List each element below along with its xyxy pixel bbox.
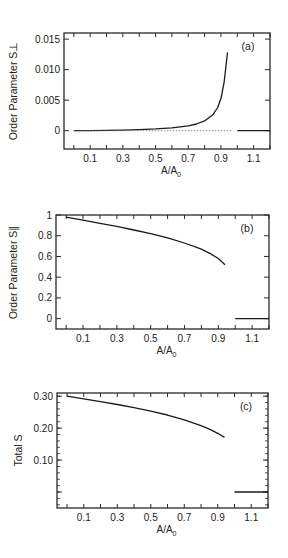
y-tick-label: 0.005 [35, 95, 60, 106]
y-axis-label: Total S [12, 434, 24, 466]
x-tick-label: 0.1 [83, 153, 97, 164]
y-axis-label: Order Parameter S∥ [7, 225, 20, 320]
panel-a-order-parameter-perp: 0.10.30.50.70.91.100.0050.0100.015A/A0Or… [7, 33, 270, 178]
x-tick-label: 0.7 [181, 153, 195, 164]
series-s-perp [74, 53, 228, 131]
plot-frame [64, 33, 270, 149]
y-tick-label: 0.20 [34, 423, 54, 434]
x-axis-label: A/A0 [156, 345, 176, 358]
panel-label: (b) [241, 222, 254, 234]
y-axis-label: Order Parameter S⊥ [7, 42, 19, 141]
x-tick-label: 1.1 [245, 333, 259, 344]
x-tick-label: 0.5 [149, 153, 163, 164]
y-tick-label: 1 [46, 210, 52, 221]
y-tick-label: 0.8 [38, 230, 52, 241]
x-tick-label: 0.9 [211, 512, 225, 523]
plot-frame [57, 393, 268, 508]
x-tick-label: 0.3 [116, 153, 130, 164]
y-tick-label: 0.6 [38, 251, 52, 262]
series-s-total [67, 396, 225, 437]
x-tick-label: 0.3 [110, 512, 124, 523]
y-tick-label: 0.10 [34, 455, 54, 466]
panel-label: (a) [242, 40, 255, 52]
y-tick-label: 0.30 [34, 391, 54, 402]
y-tick-label: 0 [46, 313, 52, 324]
panel-b-order-parameter-parallel: 0.10.30.50.70.91.100.20.40.60.81A/A0Orde… [7, 210, 269, 359]
x-tick-label: 0.1 [77, 512, 91, 523]
y-tick-label: 0 [54, 125, 60, 136]
x-tick-label: 0.5 [144, 512, 158, 523]
panel-label: (c) [240, 400, 252, 412]
x-tick-label: 0.9 [214, 153, 228, 164]
x-tick-label: 0.7 [178, 333, 192, 344]
plot-frame [56, 215, 269, 329]
y-tick-label: 0.2 [38, 292, 52, 303]
x-tick-label: 0.9 [211, 333, 225, 344]
x-tick-label: 1.1 [244, 512, 258, 523]
x-axis-label: A/A0 [156, 524, 176, 537]
x-tick-label: 0.7 [177, 512, 191, 523]
y-tick-label: 0.015 [35, 34, 60, 45]
series-s-par [66, 217, 225, 265]
x-tick-label: 0.3 [110, 333, 124, 344]
panel-c-total-s: 0.10.30.50.70.91.10.100.200.30A/A0Total … [12, 391, 268, 537]
y-tick-label: 0.4 [38, 272, 52, 283]
x-tick-label: 1.1 [247, 153, 261, 164]
y-tick-label: 0.010 [35, 64, 60, 75]
figure: 0.10.30.50.70.91.100.0050.0100.015A/A0Or… [0, 0, 288, 558]
x-tick-label: 0.5 [144, 333, 158, 344]
x-tick-label: 0.1 [76, 333, 90, 344]
x-axis-label: A/A0 [161, 165, 181, 178]
